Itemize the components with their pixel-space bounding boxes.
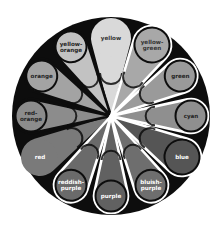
label-green: green [171, 73, 189, 80]
label-yellow-green: yellow-green [141, 39, 164, 52]
label-yellow: yellow [101, 35, 121, 42]
label-reddish-purple: reddish-purple [58, 179, 85, 192]
label-yellow-orange: yellow-orange [60, 41, 83, 54]
label-orange: orange [31, 73, 53, 80]
color-wheel: yellowredred-orangeorangeyellow-orangeye… [0, 0, 222, 232]
label-bluish-purple: bluish-purple [140, 179, 162, 192]
label-blue: blue [175, 154, 189, 160]
label-purple: purple [101, 193, 122, 200]
label-cyan: cyan [184, 113, 199, 120]
label-red: red [35, 154, 46, 160]
